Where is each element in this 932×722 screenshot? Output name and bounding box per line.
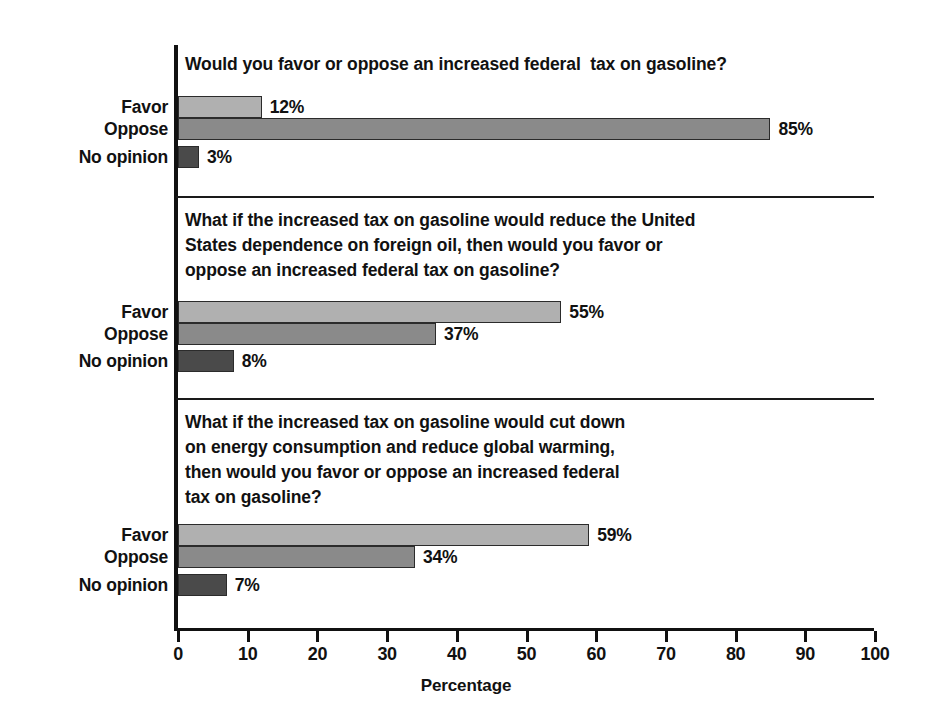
bar-no-opinion xyxy=(178,146,199,168)
x-axis-tick xyxy=(177,631,180,642)
x-axis-tick xyxy=(735,631,738,642)
bar-value-favor: 12% xyxy=(270,96,304,118)
bar-value-no-opinion: 8% xyxy=(242,350,267,372)
x-axis-tick xyxy=(526,631,529,642)
x-axis-tick-label: 20 xyxy=(287,644,347,665)
bar-oppose xyxy=(178,118,770,140)
x-axis-tick-label: 40 xyxy=(427,644,487,665)
bar-value-oppose: 37% xyxy=(444,323,478,345)
bar-value-favor: 59% xyxy=(597,524,631,546)
x-axis-tick-label: 80 xyxy=(706,644,766,665)
x-axis-tick-label: 100 xyxy=(845,644,905,665)
x-axis-tick xyxy=(804,631,807,642)
bar-favor xyxy=(178,301,561,323)
panel-separator-1 xyxy=(176,196,874,198)
bar-row: Oppose 34% xyxy=(0,546,932,568)
bar-no-opinion xyxy=(178,574,227,596)
question-text-2: What if the increased tax on gasoline wo… xyxy=(185,208,695,283)
question-text-3: What if the increased tax on gasoline wo… xyxy=(185,410,625,510)
x-axis-tick-label: 30 xyxy=(357,644,417,665)
bar-row: Favor 55% xyxy=(0,301,932,323)
x-axis-tick xyxy=(874,631,877,642)
x-axis-title: Percentage xyxy=(0,676,932,696)
x-axis-tick-label: 50 xyxy=(497,644,557,665)
bar-value-oppose: 85% xyxy=(778,118,812,140)
bar-row: Favor 59% xyxy=(0,524,932,546)
x-axis-tick-label: 70 xyxy=(636,644,696,665)
category-label-oppose: Oppose xyxy=(0,323,168,345)
question-text-1: Would you favor or oppose an increased f… xyxy=(185,52,727,77)
bar-value-oppose: 34% xyxy=(423,546,457,568)
bar-value-favor: 55% xyxy=(569,301,603,323)
x-axis-tick-label: 0 xyxy=(148,644,208,665)
x-axis-tick xyxy=(665,631,668,642)
category-label-no-opinion: No opinion xyxy=(0,574,168,596)
bar-row: No opinion 8% xyxy=(0,350,932,372)
x-axis-tick-label: 10 xyxy=(218,644,278,665)
bar-row: Favor 12% xyxy=(0,96,932,118)
x-axis-tick xyxy=(456,631,459,642)
x-axis-tick xyxy=(595,631,598,642)
x-axis-tick-label: 60 xyxy=(566,644,626,665)
bar-favor xyxy=(178,96,262,118)
bar-oppose xyxy=(178,323,436,345)
bar-row: Oppose 37% xyxy=(0,323,932,345)
x-axis-spine xyxy=(174,628,874,631)
panel-separator-2 xyxy=(176,398,874,400)
x-axis-tick xyxy=(247,631,250,642)
bar-oppose xyxy=(178,546,415,568)
category-label-oppose: Oppose xyxy=(0,118,168,140)
bar-value-no-opinion: 3% xyxy=(207,146,232,168)
bar-row: No opinion 3% xyxy=(0,146,932,168)
bar-chart: Would you favor or oppose an increased f… xyxy=(0,0,932,722)
bar-row: No opinion 7% xyxy=(0,574,932,596)
category-label-favor: Favor xyxy=(0,96,168,118)
category-label-no-opinion: No opinion xyxy=(0,146,168,168)
category-label-favor: Favor xyxy=(0,301,168,323)
x-axis-tick xyxy=(386,631,389,642)
x-axis-tick xyxy=(316,631,319,642)
category-label-oppose: Oppose xyxy=(0,546,168,568)
bar-favor xyxy=(178,524,589,546)
bar-no-opinion xyxy=(178,350,234,372)
bar-row: Oppose 85% xyxy=(0,118,932,140)
category-label-favor: Favor xyxy=(0,524,168,546)
x-axis-tick-label: 90 xyxy=(775,644,835,665)
category-label-no-opinion: No opinion xyxy=(0,350,168,372)
bar-value-no-opinion: 7% xyxy=(235,574,260,596)
